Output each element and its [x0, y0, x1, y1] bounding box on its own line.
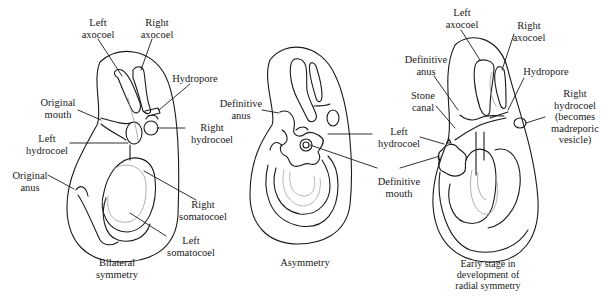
embryo-bilateral [67, 51, 179, 262]
label-hydropore-bilateral: Hydropore [170, 73, 220, 85]
label-left-hydrocoel-bilateral: Left hydrocoel [22, 133, 72, 156]
caption-radial-symmetry: Early stage in development of radial sym… [448, 258, 528, 291]
embryo-asymmetry [250, 47, 351, 244]
label-right-hydrocoel-bilateral: Right hydrocoel [186, 122, 238, 145]
label-right-hydrocoel-radial: Right hydrocoel (becomes madreporic vesi… [544, 88, 605, 146]
label-original-mouth: Original mouth [36, 97, 80, 120]
label-stone-canal: Stone canal [403, 90, 443, 113]
label-right-axocoel-radial: Right axocoel [508, 20, 550, 43]
label-left-hydrocoel-asymmetry: Left hydrocoel [373, 126, 425, 149]
label-definitive-mouth: Definitive mouth [373, 176, 425, 199]
caption-asymmetry: Asymmetry [275, 257, 335, 269]
label-right-axocoel-bilateral: Right axocoel [136, 17, 178, 40]
label-left-axocoel-bilateral: Left axocoel [77, 17, 119, 40]
diagram-artwork [0, 0, 605, 296]
label-original-anus: Original anus [8, 170, 52, 193]
label-left-somatocoel: Left somatocoel [163, 235, 219, 258]
label-definitive-anus-radial: Definitive anus [400, 54, 452, 77]
caption-bilateral-symmetry: Bilateral symmetry [86, 257, 148, 281]
label-definitive-anus-asymmetry: Definitive anus [215, 98, 267, 121]
label-right-somatocoel: Right somatocoel [175, 199, 231, 222]
label-hydropore-radial: Hydropore [520, 66, 572, 78]
label-left-axocoel-radial: Left axocoel [441, 7, 483, 30]
